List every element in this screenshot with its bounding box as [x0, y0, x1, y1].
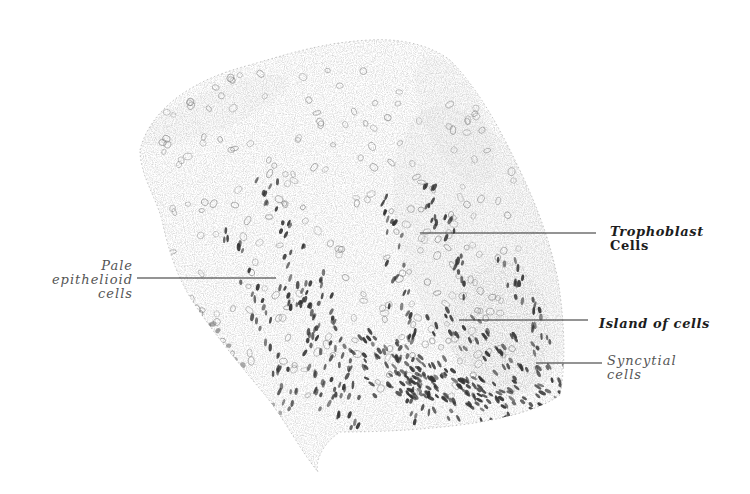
pale-epithelioid-cells-label-line: Pale: [52, 259, 133, 273]
island-of-cells-label: Island of cells: [599, 317, 710, 331]
syncytial-cells-label: Syncytialcells: [607, 354, 677, 382]
pale-epithelioid-cells-label: Paleepithelioidcells: [52, 259, 133, 301]
pale-epithelioid-cells-label-line: epithelioid: [52, 273, 133, 287]
trophoblast-cells-label-line: Cells: [610, 239, 704, 253]
trophoblast-cells-label: TrophoblastCells: [610, 225, 704, 253]
island-of-cells-label-line: Island of cells: [599, 317, 710, 331]
pale-epithelioid-cells-label-line: cells: [52, 287, 133, 301]
syncytial-cells-label-line: cells: [607, 368, 677, 382]
syncytial-cells-label-line: Syncytial: [607, 354, 677, 368]
tissue-body: [120, 30, 602, 480]
trophoblast-cells-label-line: Trophoblast: [610, 225, 704, 239]
